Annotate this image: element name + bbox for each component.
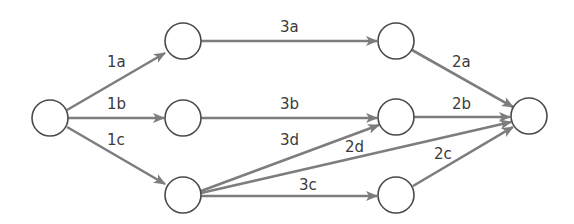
edge-2c (413, 127, 513, 186)
network-diagram: 1a 1b 1c 3a 3b 3d 2d 3c 2a 2b 2c (0, 0, 574, 224)
label-3a: 3a (280, 18, 299, 36)
edges (67, 41, 513, 196)
label-3b: 3b (280, 95, 299, 113)
node-b2 (378, 99, 414, 135)
node-a2 (378, 23, 414, 59)
label-3d: 3d (280, 131, 299, 149)
label-3c: 3c (299, 176, 317, 194)
node-b1 (165, 100, 201, 136)
label-2d: 2d (345, 138, 364, 156)
label-2a: 2a (452, 53, 471, 71)
label-2c: 2c (434, 145, 452, 163)
node-a1 (165, 23, 201, 59)
node-source (32, 100, 68, 136)
node-sink (511, 98, 547, 134)
label-2b: 2b (452, 95, 471, 113)
label-1c: 1c (107, 131, 125, 149)
label-1a: 1a (107, 53, 126, 71)
label-1b: 1b (107, 95, 126, 113)
node-c1 (165, 177, 201, 213)
edge-labels: 1a 1b 1c 3a 3b 3d 2d 3c 2a 2b 2c (107, 18, 471, 194)
node-c2 (378, 177, 414, 213)
